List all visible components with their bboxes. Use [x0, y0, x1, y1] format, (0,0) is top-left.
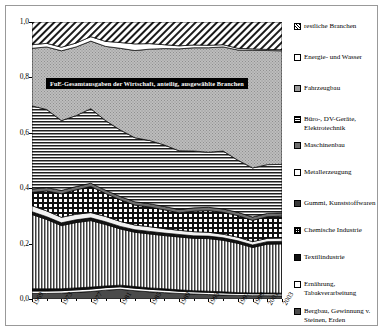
legend-swatch-icon [294, 281, 301, 288]
x-axis-minor-tick [120, 299, 121, 301]
legend-item-label: Energie- und Wasser [304, 53, 362, 62]
x-axis-minor-tick [91, 299, 92, 301]
y-axis-tick-mark [29, 188, 32, 189]
legend-item-label: Ernährung, Tabakverarbeitung [304, 280, 385, 298]
legend-item[interactable]: Maschinenbau [294, 141, 385, 150]
legend-item-label: Maschinenbau [304, 141, 345, 150]
x-axis-minor-tick [267, 299, 268, 301]
legend-swatch-icon [294, 169, 301, 176]
legend-item[interactable]: Metallerzeugung [294, 168, 385, 177]
x-axis-minor-tick [164, 299, 165, 301]
x-axis-minor-tick [106, 299, 107, 301]
y-axis-tick-label: 0,0 [20, 295, 29, 303]
x-axis-minor-tick [47, 299, 48, 301]
legend-swatch-icon [294, 142, 301, 149]
legend-item[interactable]: Ernährung, Tabakverarbeitung [294, 280, 385, 298]
y-axis-tick-label: 0,4 [20, 184, 29, 192]
y-axis-tick-label: 0,8 [20, 74, 29, 82]
legend-item[interactable]: restliche Branchen [294, 22, 385, 31]
x-axis-minor-tick [150, 299, 151, 301]
y-axis-tick-mark [29, 77, 32, 78]
legend-item-label: Chemische Industrie [304, 226, 362, 235]
chart-frame: 0,00,20,40,60,81,0 196919731977198119851… [5, 5, 378, 326]
legend-item-label: Fahrzeugbau [304, 84, 340, 93]
plot-area: 0,00,20,40,60,81,0 196919731977198119851… [32, 22, 282, 299]
x-axis-minor-tick [135, 299, 136, 301]
y-axis-tick-mark [29, 133, 32, 134]
x-axis-minor-tick [253, 299, 254, 301]
legend-item[interactable]: Fahrzeugbau [294, 84, 385, 93]
legend-item-label: Büro-, DV-Geräte, Elektrotechnik [304, 115, 385, 133]
x-axis-minor-tick [194, 299, 195, 301]
legend-item-label: Bergbau, Gewinnung v. Steinen, Erden [304, 307, 385, 325]
stacked-area-svg [32, 22, 282, 299]
legend-swatch-icon [294, 227, 301, 234]
legend-swatch-icon [294, 308, 301, 315]
legend-swatch-icon [294, 116, 301, 123]
y-axis-tick-mark [29, 244, 32, 245]
x-axis-minor-tick [179, 299, 180, 301]
chart-legend: restliche BranchenEnergie- und WasserFah… [294, 18, 385, 318]
y-axis-tick-label: 0,2 [20, 240, 29, 248]
legend-item[interactable]: Bergbau, Gewinnung v. Steinen, Erden [294, 307, 385, 325]
legend-swatch-icon [294, 54, 301, 61]
legend-item-label: Textilindustrie [304, 253, 345, 262]
x-axis-minor-tick [32, 299, 33, 301]
x-axis-minor-tick [282, 299, 283, 301]
y-axis-tick-label: 1,0 [20, 18, 29, 26]
legend-item[interactable]: Textilindustrie [294, 253, 385, 262]
chart-title: FuE-Gesamtausgaben der Wirtschaft, antei… [46, 78, 248, 89]
legend-item-label: restliche Branchen [304, 22, 356, 31]
legend-item-label: Metallerzeugung [304, 168, 351, 177]
legend-item[interactable]: Büro-, DV-Geräte, Elektrotechnik [294, 115, 385, 133]
legend-swatch-icon [294, 23, 301, 30]
y-axis-tick-label: 0,6 [20, 129, 29, 137]
x-axis-minor-tick [238, 299, 239, 301]
x-axis-minor-tick [223, 299, 224, 301]
legend-swatch-icon [294, 254, 301, 261]
legend-swatch-icon [294, 200, 301, 207]
legend-item[interactable]: Gummi, Kunststoffwaren [294, 199, 385, 208]
x-axis-minor-tick [76, 299, 77, 301]
legend-swatch-icon [294, 85, 301, 92]
x-axis-minor-tick [61, 299, 62, 301]
x-axis-minor-tick [208, 299, 209, 301]
legend-item[interactable]: Energie- und Wasser [294, 53, 385, 62]
legend-item-label: Gummi, Kunststoffwaren [304, 199, 375, 208]
legend-item[interactable]: Chemische Industrie [294, 226, 385, 235]
y-axis-tick-mark [29, 22, 32, 23]
